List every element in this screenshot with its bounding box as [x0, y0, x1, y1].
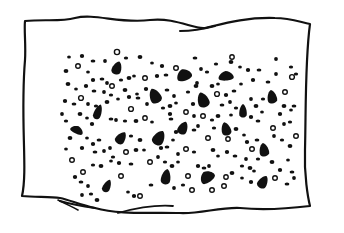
small-dot — [160, 64, 164, 68]
small-dot — [78, 112, 83, 116]
small-dot — [90, 122, 94, 126]
small-dot — [174, 101, 178, 104]
small-dot — [282, 122, 286, 126]
small-dot — [68, 136, 73, 140]
small-dot — [192, 128, 197, 131]
small-dot — [135, 92, 139, 95]
small-dot — [165, 88, 170, 91]
small-dot — [289, 65, 293, 68]
small-dot — [238, 65, 242, 68]
small-dot — [129, 134, 133, 137]
small-dot — [234, 106, 238, 109]
small-dot — [286, 158, 290, 161]
small-dot — [86, 102, 90, 106]
small-dot — [251, 78, 255, 82]
small-dot — [239, 82, 243, 85]
small-dot — [64, 69, 69, 73]
small-dot — [80, 193, 84, 197]
small-dot — [282, 104, 287, 108]
small-dot — [138, 55, 143, 59]
small-dot — [123, 119, 127, 122]
small-dot — [168, 104, 173, 108]
small-dot — [91, 59, 96, 62]
small-dot — [278, 112, 282, 116]
small-dot — [196, 124, 200, 128]
small-dot — [116, 97, 120, 100]
small-dot — [123, 88, 128, 92]
small-dot — [254, 104, 259, 108]
small-dot — [172, 186, 176, 190]
small-dot — [103, 59, 107, 63]
small-dot — [155, 74, 159, 78]
small-dot — [109, 93, 113, 96]
small-dot — [124, 56, 128, 59]
small-dot — [220, 103, 225, 106]
small-dot — [172, 94, 176, 98]
small-dot — [105, 81, 109, 85]
small-dot — [230, 171, 235, 175]
small-dot — [288, 144, 293, 148]
small-dot — [132, 194, 136, 198]
small-dot — [294, 72, 298, 75]
small-dot — [144, 87, 148, 91]
small-dot — [156, 155, 160, 159]
small-dot — [117, 161, 121, 165]
small-dot — [91, 78, 95, 82]
small-dot — [99, 164, 104, 168]
small-dot — [142, 148, 146, 151]
small-dot — [149, 183, 154, 186]
small-dot — [63, 99, 67, 103]
small-dot — [66, 82, 71, 86]
small-dot — [150, 61, 154, 64]
small-dot — [292, 176, 296, 180]
small-dot — [100, 77, 105, 80]
small-dot — [210, 84, 215, 88]
small-dot — [80, 54, 84, 58]
small-dot — [256, 119, 261, 122]
small-dot — [164, 73, 169, 76]
small-dot — [192, 114, 196, 118]
small-dot — [193, 56, 198, 59]
small-dot — [159, 146, 163, 150]
small-dot — [136, 96, 141, 99]
small-dot — [161, 106, 165, 109]
small-dot — [109, 159, 113, 162]
small-dot — [240, 176, 244, 179]
small-dot — [74, 87, 78, 90]
small-dot — [290, 170, 295, 173]
small-dot — [211, 148, 216, 152]
small-dot — [60, 112, 64, 116]
small-dot — [84, 84, 88, 88]
small-dot — [256, 157, 260, 160]
small-dot — [129, 162, 134, 165]
small-dot — [252, 169, 256, 172]
small-dot — [240, 164, 244, 167]
small-dot — [64, 119, 68, 122]
small-dot — [232, 89, 237, 92]
small-dot — [255, 138, 260, 141]
small-dot — [92, 89, 97, 92]
small-dot — [150, 120, 154, 123]
small-dot — [163, 160, 167, 163]
small-dot — [186, 90, 190, 93]
small-dot — [134, 148, 139, 152]
small-dot — [229, 113, 233, 116]
small-dot — [249, 180, 253, 184]
small-dot — [212, 126, 216, 129]
small-dot — [261, 97, 265, 100]
spotted-cloth-drawing — [0, 0, 344, 233]
small-dot — [266, 80, 271, 83]
small-dot — [244, 157, 248, 161]
small-dot — [91, 142, 95, 146]
small-dot — [229, 60, 234, 64]
small-dot — [234, 127, 239, 131]
small-dot — [85, 136, 89, 139]
small-dot — [102, 90, 106, 94]
small-dot — [207, 164, 211, 168]
small-dot — [176, 160, 180, 163]
illustration-canvas — [0, 0, 344, 233]
small-dot — [169, 117, 174, 120]
small-dot — [274, 57, 278, 61]
small-dot — [216, 114, 221, 118]
small-dot — [199, 67, 203, 71]
